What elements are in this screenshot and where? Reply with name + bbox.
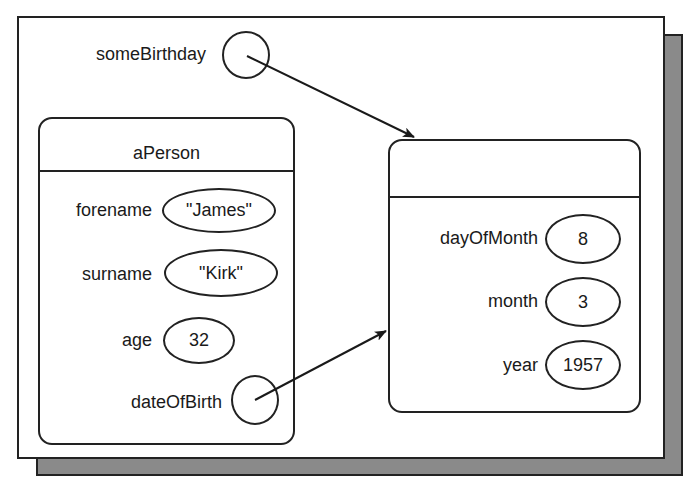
date-of-birth-arrow — [255, 331, 386, 400]
some-birthday-arrow — [247, 56, 414, 137]
reference-arrows — [0, 0, 696, 494]
